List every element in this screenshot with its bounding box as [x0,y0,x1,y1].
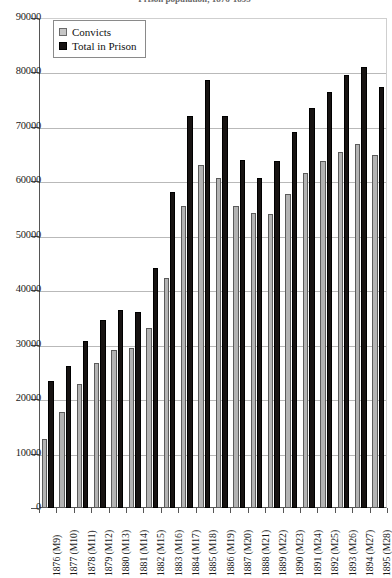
bar-group [91,18,108,508]
bar-group [317,18,334,508]
x-axis-labels: 1876 (M9)1877 (M10)1878 (M11)1879 (M12)1… [39,514,387,578]
x-axis-tick-label: 1883 (M16) [174,512,184,576]
legend-label: Convicts [72,26,111,38]
bar-total-in-prison [344,75,349,508]
x-axis-tick-label: 1892 (M25) [330,512,340,576]
bar-convicts [42,439,47,508]
bar-group [143,18,160,508]
bar-total-in-prison [292,132,297,508]
bar-group [196,18,213,508]
bars-layer [39,18,387,508]
bar-total-in-prison [48,381,53,508]
bar-total-in-prison [274,161,279,508]
bar-group [265,18,282,508]
bar-group [56,18,73,508]
x-axis-tick-label: 1891 (M24) [313,512,323,576]
bar-group [335,18,352,508]
bar-convicts [303,173,308,508]
bar-total-in-prison [100,320,105,508]
bar-group [283,18,300,508]
legend-item: Convicts [59,25,137,39]
y-axis-tick-label: 10000 [5,448,41,458]
y-axis-tick-label: 40000 [5,284,41,294]
chart-title: Prison population, 1876-1895 [0,0,389,6]
bar-total-in-prison [205,80,210,508]
bar-convicts [111,350,116,508]
legend-item: Total in Prison [59,39,137,53]
y-axis-tick-label: 70000 [5,121,41,131]
bar-total-in-prison [66,366,71,508]
x-axis-tick-label: 1889 (M22) [278,512,288,576]
y-axis-tick-label: 90000 [5,12,41,22]
bar-total-in-prison [118,310,123,508]
bar-total-in-prison [187,116,192,508]
bar-convicts [355,144,360,508]
x-axis-tick-label: 1886 (M19) [226,512,236,576]
y-axis-tick-label: 0 [5,502,41,512]
bar-total-in-prison [361,67,366,508]
bar-convicts [94,363,99,508]
bar-convicts [216,178,221,508]
bar-convicts [129,348,134,508]
bar-group [248,18,265,508]
bar-group [213,18,230,508]
x-axis-tick-label: 1879 (M12) [104,512,114,576]
x-axis-tick-label: 1895 (M28) [382,512,392,576]
bar-total-in-prison [170,192,175,508]
x-axis-tick-label: 1887 (M20) [243,512,253,576]
bar-group [74,18,91,508]
legend-label: Total in Prison [72,40,137,52]
x-axis-tick-label: 1882 (M15) [156,512,166,576]
y-axis-tick-label: 60000 [5,175,41,185]
bar-convicts [372,155,377,508]
bar-group [230,18,247,508]
y-axis-tick-label: 50000 [5,230,41,240]
bar-convicts [251,213,256,508]
x-axis-tick-label: 1877 (M10) [69,512,79,576]
bar-total-in-prison [309,108,314,508]
bar-group [39,18,56,508]
bar-group [161,18,178,508]
bar-total-in-prison [153,268,158,508]
x-axis-tick-label: 1878 (M11) [87,512,97,576]
bar-group [126,18,143,508]
x-axis-tick-label: 1893 (M26) [348,512,358,576]
y-axis-tick-label: 80000 [5,66,41,76]
bar-total-in-prison [240,160,245,508]
x-axis-tick-label: 1876 (M9) [52,512,62,576]
bar-convicts [198,165,203,508]
legend-swatch-convicts-icon [59,28,67,36]
bar-group [178,18,195,508]
x-axis-tick-label: 1888 (M21) [261,512,271,576]
x-axis-tick [39,508,40,513]
bar-convicts [320,161,325,508]
y-axis-tick-label: 20000 [5,393,41,403]
bar-group [352,18,369,508]
x-axis-tick-label: 1884 (M17) [191,512,201,576]
bar-convicts [233,206,238,508]
bar-total-in-prison [257,178,262,508]
bar-group [370,18,387,508]
bar-convicts [77,384,82,508]
bar-total-in-prison [135,312,140,508]
bar-convicts [338,152,343,508]
y-axis-tick-label: 30000 [5,339,41,349]
x-axis-tick-label: 1890 (M23) [295,512,305,576]
bar-convicts [146,328,151,508]
legend-swatch-total-icon [59,42,67,50]
bar-convicts [181,206,186,508]
bar-total-in-prison [83,341,88,508]
bar-group [109,18,126,508]
bar-convicts [268,214,273,508]
bar-total-in-prison [379,87,384,508]
bar-convicts [59,412,64,508]
bar-convicts [164,278,169,508]
bar-total-in-prison [222,116,227,508]
x-axis-tick-label: 1885 (M18) [208,512,218,576]
bar-convicts [285,194,290,508]
x-axis-tick-label: 1894 (M27) [365,512,375,576]
x-axis-tick-label: 1880 (M13) [121,512,131,576]
x-axis-tick-label: 1881 (M14) [139,512,149,576]
bar-group [300,18,317,508]
